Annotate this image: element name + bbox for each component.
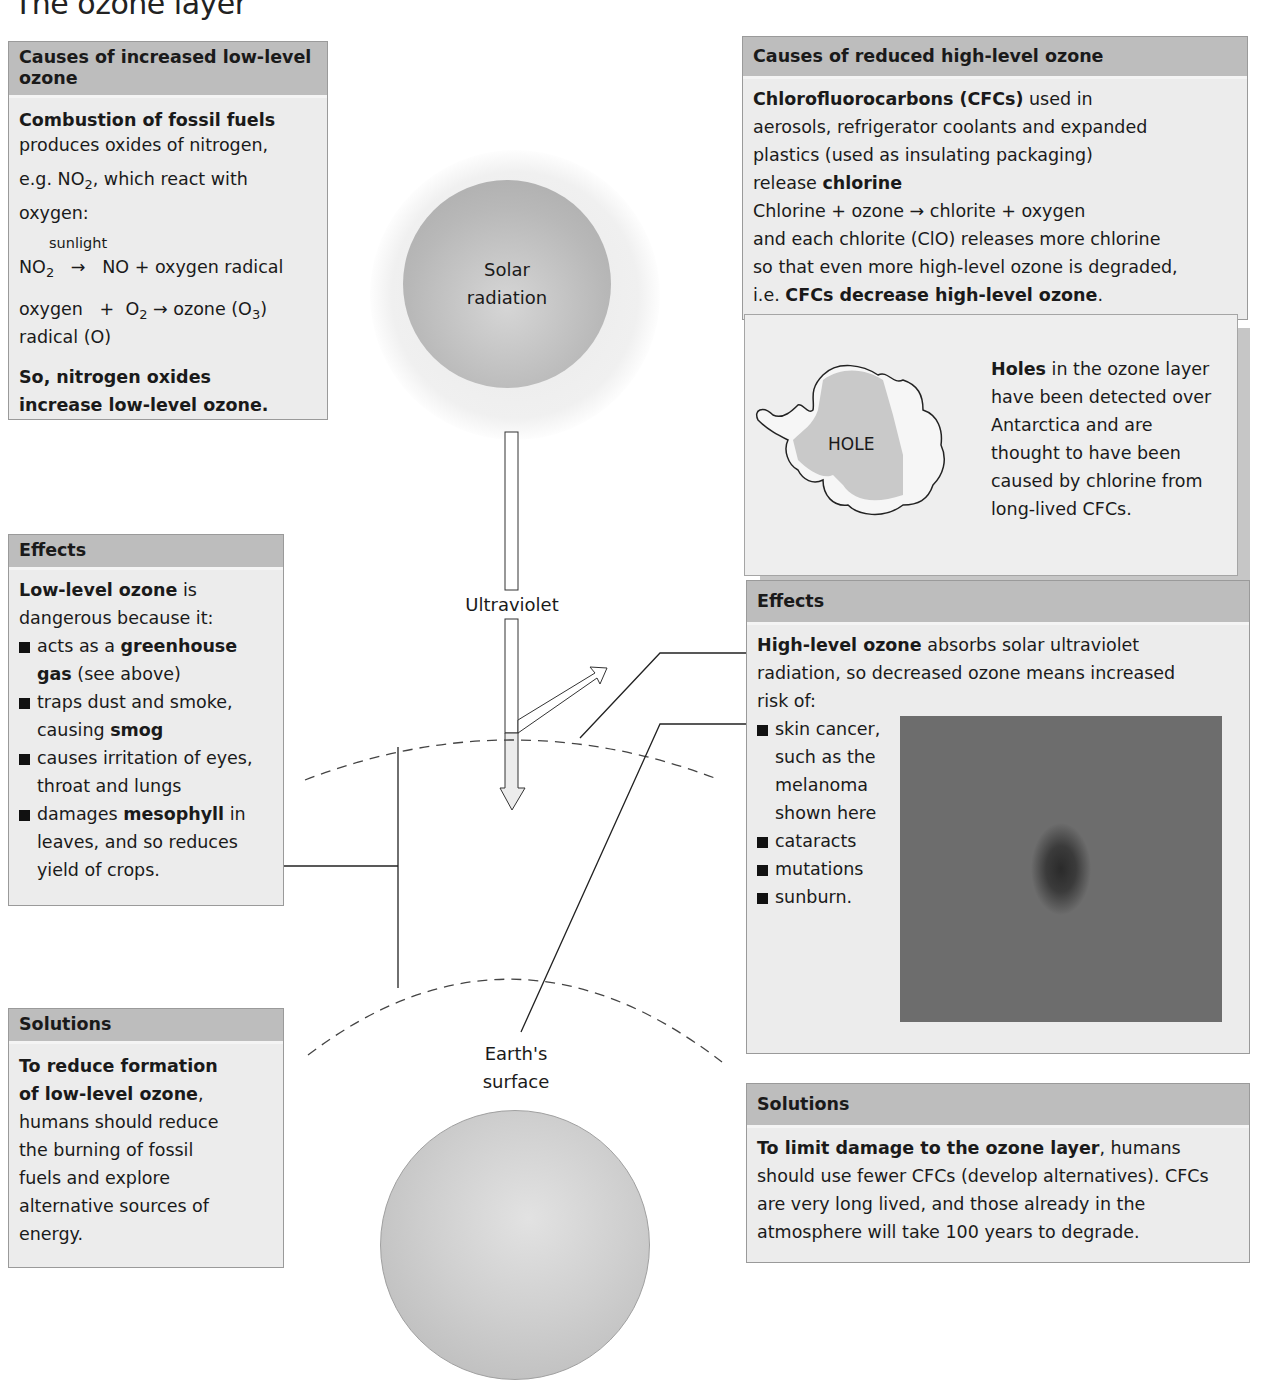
ultraviolet-label: Ultraviolet (462, 591, 562, 619)
high-level-solutions-heading: Solutions (747, 1084, 1249, 1128)
melanoma-photo (900, 716, 1222, 1022)
low-level-effects-box: Effects Low-level ozone is dangerous bec… (8, 534, 284, 906)
list-item: mutations (757, 855, 887, 883)
high-level-effects-heading: Effects (747, 581, 1249, 625)
page-title: The ozone layer (14, 0, 247, 21)
list-item: damages mesophyll in leaves, and so redu… (19, 800, 273, 884)
list-item: sunburn. (757, 883, 887, 911)
high-level-causes-box: Causes of reduced high-level ozone Chlor… (742, 36, 1248, 320)
equation-1: NO2 → NO + oxygen radical (19, 253, 317, 287)
ozone-holes-box: HOLE Holes in the ozone layer have been … (744, 314, 1238, 576)
list-item: traps dust and smoke, causing smog (19, 688, 273, 744)
low-level-solutions-heading: Solutions (9, 1009, 283, 1044)
combustion-lead: Combustion of fossil fuels (19, 110, 275, 130)
low-effects-list: acts as a greenhouse gas (see above) tra… (19, 632, 273, 884)
list-item: skin cancer, such as the melanoma shown … (757, 715, 887, 827)
sun-label-2: radiation (467, 284, 547, 312)
list-item: cataracts (757, 827, 887, 855)
high-level-solutions-box: Solutions To limit damage to the ozone l… (746, 1083, 1250, 1263)
low-level-effects-heading: Effects (9, 535, 283, 570)
low-level-solutions-box: Solutions To reduce formation of low-lev… (8, 1008, 284, 1268)
holes-description: Holes in the ozone layer have been detec… (991, 355, 1221, 523)
hole-label: HOLE (828, 434, 874, 454)
low-level-causes-heading: Causes of increased low-level ozone (9, 42, 327, 98)
antarctica-map-icon: HOLE (753, 355, 963, 535)
earth-globe-icon (380, 1110, 650, 1380)
list-item: causes irritation of eyes, throat and lu… (19, 744, 273, 800)
high-effects-list: skin cancer, such as the melanoma shown … (757, 715, 887, 911)
list-item: acts as a greenhouse gas (see above) (19, 632, 273, 688)
sun-icon: Solar radiation (403, 180, 611, 388)
low-causes-conclusion: So, nitrogen oxides increase low-level o… (19, 363, 299, 419)
high-level-causes-heading: Causes of reduced high-level ozone (743, 37, 1247, 79)
earth-surface-label: Earth's surface (466, 1040, 566, 1096)
low-level-causes-box: Causes of increased low-level ozone Comb… (8, 41, 328, 420)
chlorine-equation: Chlorine + ozone → chlorite + oxygen (753, 197, 1237, 225)
high-level-effects-box: Effects High-level ozone absorbs solar u… (746, 580, 1250, 1054)
sun-label-1: Solar (484, 256, 530, 284)
sunlight-label: sunlight (19, 233, 317, 253)
